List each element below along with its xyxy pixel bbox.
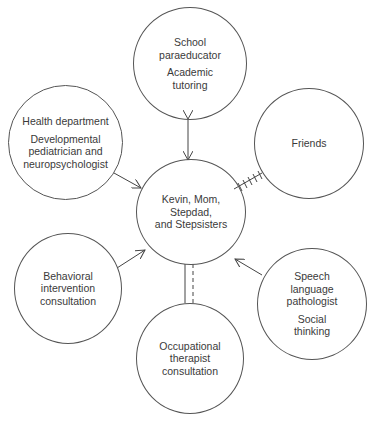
node-school: School paraeducator Academic tutoring (133, 7, 247, 120)
center-line-1: Kevin, Mom, (162, 193, 220, 206)
node-speech: Speech language pathologist Social think… (257, 248, 367, 360)
behavioral-line-2: intervention (41, 282, 95, 295)
school-title-2: paraeducator (159, 49, 221, 62)
school-detail-1: Academic (167, 66, 213, 79)
school-detail-2: tutoring (172, 79, 207, 92)
health-detail-2: pediatrician and (28, 145, 102, 158)
health-title: Health department (22, 115, 108, 128)
school-title-1: School (174, 36, 206, 49)
behavioral-line-3: consultation (40, 295, 96, 308)
node-behavioral: Behavioral intervention consultation (14, 233, 122, 344)
speech-title-2: language (290, 283, 333, 296)
occupational-line-3: consultation (162, 365, 218, 378)
center-line-2: Stepdad, (170, 206, 212, 219)
speech-arrow (235, 259, 262, 275)
behavioral-line-1: Behavioral (43, 270, 93, 283)
node-occupational: Occupational therapist consultation (136, 303, 244, 414)
speech-title-3: pathologist (287, 295, 338, 308)
health-arrow (114, 173, 141, 188)
node-health: Health department Developmental pediatri… (8, 85, 123, 200)
center-line-3: and Stepsisters (155, 218, 227, 231)
node-family-center: Kevin, Mom, Stepdad, and Stepsisters (136, 159, 246, 265)
speech-detail-2: thinking (294, 325, 330, 338)
node-friends: Friends (254, 88, 364, 199)
health-detail-1: Developmental (30, 133, 100, 146)
behavioral-arrow (117, 250, 145, 268)
speech-detail-1: Social (298, 313, 327, 326)
occupational-line-1: Occupational (159, 340, 220, 353)
friends-title: Friends (291, 137, 326, 150)
health-detail-3: neuropsychologist (23, 158, 108, 171)
speech-title-1: Speech (294, 270, 330, 283)
occupational-line-2: therapist (170, 352, 210, 365)
